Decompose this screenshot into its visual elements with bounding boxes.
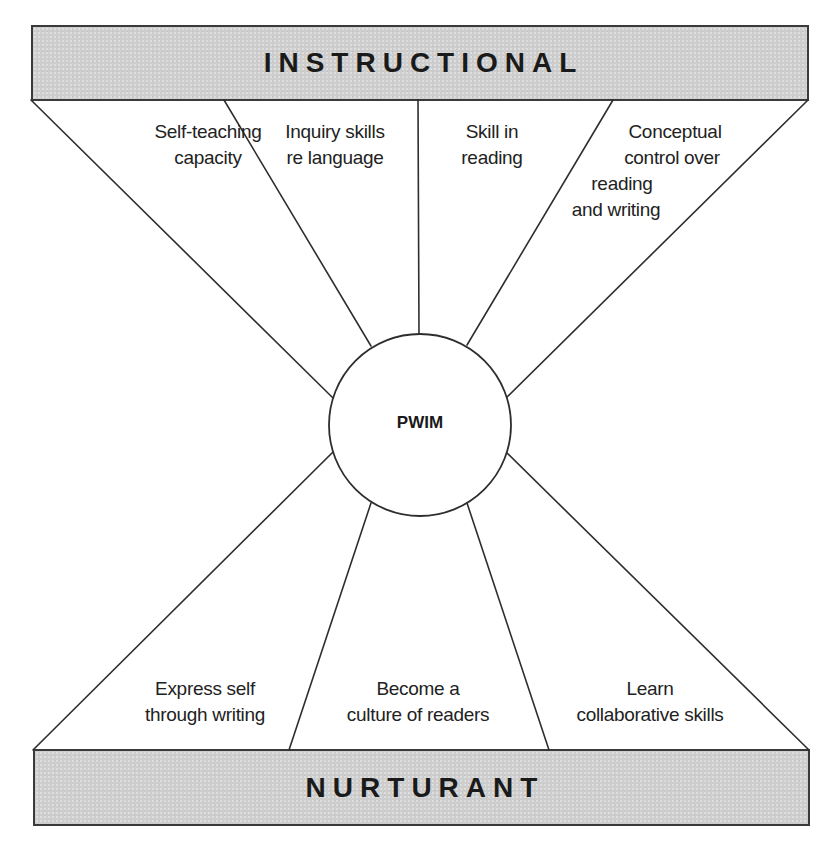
goal-conceptual-control-cont: reading and writing [552, 171, 692, 223]
goal-express-self: Express self through writing [130, 676, 280, 728]
goal-skill-in-reading: Skill in reading [432, 119, 552, 171]
connector-top-3 [418, 100, 419, 334]
pwim-label: PWIM [360, 413, 480, 433]
goal-inquiry-skills: Inquiry skills re language [265, 119, 405, 171]
goal-culture-of-readers: Become a culture of readers [333, 676, 503, 728]
goal-collaborative-skills: Learn collaborative skills [560, 676, 740, 728]
pwim-diagram: INSTRUCTIONAL NURTURANT PWIM Self-teachi… [0, 0, 834, 852]
goal-conceptual-control: Conceptual control over [605, 119, 745, 171]
goal-self-teaching: Self-teaching capacity [138, 119, 278, 171]
